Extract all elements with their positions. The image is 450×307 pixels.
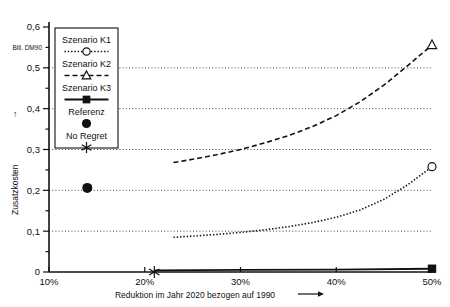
legend-label-1: Szenario K1 [62, 35, 111, 45]
marker-triangle-open-icon [427, 40, 436, 49]
y-axis-tick-label: 0,6 [27, 21, 40, 32]
x-axis-tick-label: 30% [231, 276, 251, 287]
y-axis-arrow-icon: ↑ [13, 109, 17, 119]
y-axis-tick-label: 0,2 [27, 185, 40, 196]
series-line [173, 167, 432, 238]
y-axis-tick-label: 0,4 [27, 103, 40, 114]
legend-label-3: Szenario K3 [62, 83, 111, 93]
y-axis-ticks [43, 27, 49, 272]
x-axis-tick-label: 20% [135, 276, 155, 287]
x-axis-tick-label: 50% [422, 276, 442, 287]
x-axis-tick-label: 10% [39, 276, 59, 287]
series-2 [173, 40, 436, 163]
marker-circle-filled-icon [82, 119, 91, 128]
series-line [154, 269, 432, 271]
chart-container: 00,10,20,30,40,50,6 10%20%30%40%50% Bill… [0, 0, 450, 307]
x-axis-tick-label: 40% [327, 276, 347, 287]
y-axis-tick-label: 0,1 [27, 226, 40, 237]
y-axis-tick-labels: 00,10,20,30,40,50,6 [27, 21, 40, 277]
y-axis-tick-label: 0,5 [27, 62, 40, 73]
legend-label-4: Referenz [68, 107, 105, 117]
y-axis-title-group: Zusatzkosten ↑ [10, 109, 20, 215]
y-axis-title: Zusatzkosten [10, 164, 20, 215]
marker-circle-open-icon [83, 48, 90, 55]
marker-circle-open-icon [428, 163, 436, 171]
x-axis-tick-labels: 10%20%30%40%50% [39, 276, 442, 287]
legend-label-2: Szenario K2 [62, 59, 111, 69]
x-axis-arrow-head-icon [318, 291, 324, 297]
legend-label-5: No Regret [66, 131, 108, 141]
series-1 [173, 163, 436, 238]
x-axis-title-group: Reduktion im Jahr 2020 bezogen auf 1990 [115, 290, 324, 300]
y-axis-tick-label: 0,3 [27, 144, 40, 155]
legend: Szenario K1Szenario K2Szenario K3Referen… [55, 28, 118, 153]
marker-circle-filled-icon [82, 183, 92, 193]
marker-square-filled-icon [428, 265, 436, 273]
point-referenz [82, 183, 92, 193]
x-axis-title: Reduktion im Jahr 2020 bezogen auf 1990 [115, 290, 275, 300]
y-axis-unit-label: Bill. DM90 [12, 44, 42, 51]
data-series-layer [154, 40, 436, 273]
series-line [173, 45, 432, 163]
chart-svg: 00,10,20,30,40,50,6 10%20%30%40%50% Bill… [0, 0, 450, 307]
data-points-layer [82, 183, 159, 278]
marker-square-filled-icon [83, 96, 91, 104]
